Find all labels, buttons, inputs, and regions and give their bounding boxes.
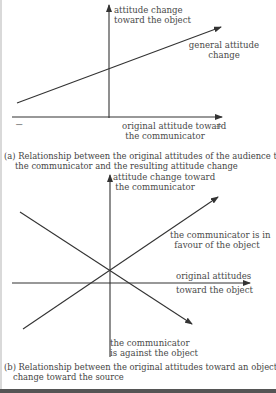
label-line: attitude change toward bbox=[113, 172, 197, 182]
label-line: the communicator bbox=[113, 182, 197, 192]
label-line: is against the object bbox=[110, 348, 186, 358]
diagram-a-x-axis-label: original attitude toward the communicato… bbox=[122, 121, 208, 141]
minus-sign: − bbox=[15, 119, 23, 130]
bottom-border bbox=[0, 389, 276, 393]
diagram-a-general-change-line bbox=[17, 27, 221, 103]
diagram-a-y-axis-label: attitude change toward the object bbox=[114, 5, 178, 25]
caption-line: (b) Relationship between the original at… bbox=[4, 362, 276, 372]
diagram-b-against-line bbox=[20, 212, 192, 324]
label-line: original attitude toward bbox=[122, 121, 208, 131]
label-line: the communicator bbox=[110, 338, 186, 348]
label-line: change bbox=[184, 50, 264, 60]
diagram-b-favour-line bbox=[23, 197, 218, 329]
label-line: general attitude bbox=[184, 40, 264, 50]
diagram-b-against-label: the communicator is against the object bbox=[110, 338, 186, 358]
caption-line: (a) Relationship between the original at… bbox=[4, 151, 276, 161]
diagram-a-line-label: general attitude change bbox=[184, 40, 264, 60]
caption-line: change toward the source bbox=[4, 372, 276, 382]
label-line: favour of the object bbox=[170, 240, 264, 250]
figure-frame: attitude change toward the object genera… bbox=[0, 0, 276, 393]
label-line: toward the object bbox=[114, 15, 178, 25]
diagram-b bbox=[12, 175, 250, 357]
label-line: attitude change bbox=[114, 5, 178, 15]
label-line: the communicator is in bbox=[170, 230, 264, 240]
diagram-b-favour-label: the communicator is in favour of the obj… bbox=[170, 230, 264, 250]
diagram-b-caption: (b) Relationship between the original at… bbox=[4, 362, 276, 382]
diagram-b-x-axis-label: original attitudes toward the object bbox=[176, 271, 244, 295]
label-line: the communicator bbox=[122, 131, 208, 141]
label-line: toward the object bbox=[176, 285, 244, 295]
label-line: original attitudes bbox=[176, 271, 244, 281]
diagram-b-y-axis-label: attitude change toward the communicator bbox=[113, 172, 197, 192]
caption-line: the communicator and the resulting attit… bbox=[4, 161, 276, 171]
diagram-a-caption: (a) Relationship between the original at… bbox=[4, 151, 276, 171]
